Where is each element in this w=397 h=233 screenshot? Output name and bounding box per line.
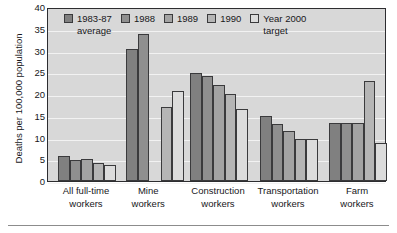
legend-item: 1988: [121, 13, 155, 25]
x-axis-category-labels: All full-time workersMine workersConstru…: [47, 185, 386, 219]
bar: [161, 107, 173, 181]
y-tick-label: 20: [34, 90, 45, 100]
footer-rule: [8, 225, 389, 226]
legend-item: 1989: [164, 13, 198, 25]
bar: [126, 49, 138, 181]
category-label: Farm workers: [316, 185, 397, 210]
bar: [329, 123, 341, 181]
legend-label: 1983-87 average: [77, 13, 112, 36]
bar: [213, 85, 225, 181]
y-tick-label: 15: [34, 112, 45, 122]
y-tick-label: 40: [34, 3, 45, 13]
legend-label: 1988: [134, 13, 155, 25]
bar: [295, 139, 307, 181]
bar: [58, 156, 70, 181]
bar: [172, 91, 184, 181]
bar: [283, 131, 295, 181]
legend-swatch-icon: [164, 14, 173, 23]
legend-label: Year 2000 target: [263, 13, 306, 36]
bar: [236, 109, 248, 181]
legend-label: 1989: [177, 13, 198, 25]
legend-item: 1990: [207, 13, 241, 25]
y-tick-label: 35: [34, 25, 45, 35]
legend-item: 1983-87 average: [64, 13, 112, 36]
bar: [341, 123, 353, 181]
bar: [104, 165, 116, 181]
legend-swatch-icon: [121, 14, 130, 23]
bar: [352, 123, 364, 181]
bar: [138, 34, 150, 181]
bar: [306, 139, 318, 181]
bar: [375, 143, 387, 181]
y-tick-label: 10: [34, 134, 45, 144]
bar-group: [329, 9, 387, 181]
bar: [364, 81, 376, 181]
legend-swatch-icon: [250, 14, 259, 23]
bar: [93, 163, 105, 181]
chart-legend: 1983-87 average198819891990Year 2000 tar…: [64, 13, 315, 36]
legend-swatch-icon: [207, 14, 216, 23]
bar: [272, 124, 284, 181]
bar: [70, 160, 82, 181]
plot-area: 1983-87 average198819891990Year 2000 tar…: [47, 8, 386, 182]
y-tick-label: 30: [34, 47, 45, 57]
bar: [190, 73, 202, 181]
y-tick-label: 5: [40, 156, 45, 166]
bar: [202, 76, 214, 181]
bar: [81, 159, 93, 181]
bar: [225, 94, 237, 181]
y-tick-label: 25: [34, 69, 45, 79]
y-axis-tick-labels: 4035302520151050: [17, 8, 45, 182]
legend-swatch-icon: [64, 14, 73, 23]
legend-item: Year 2000 target: [250, 13, 306, 36]
legend-label: 1990: [220, 13, 241, 25]
chart-figure: Deaths per 100,000 population 4035302520…: [0, 0, 397, 233]
gridline: [48, 183, 385, 184]
bar: [260, 116, 272, 181]
